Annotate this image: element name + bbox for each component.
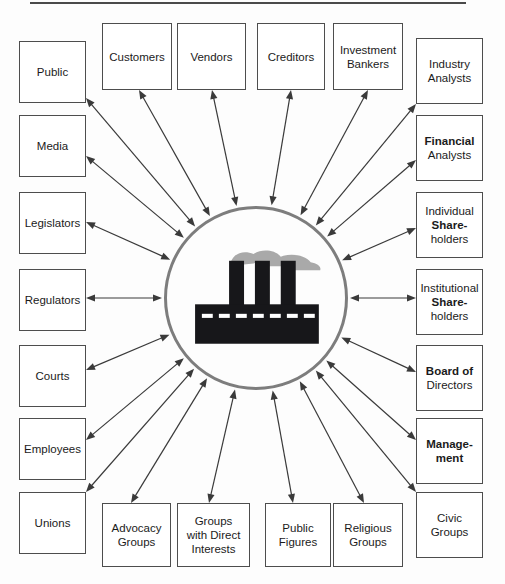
label-line: Vendors bbox=[190, 50, 232, 64]
label-line: Religious bbox=[344, 521, 391, 535]
connector-financial-analysts bbox=[327, 160, 416, 237]
stakeholder-box-board-of-directors[interactable]: Board ofDirectors bbox=[416, 345, 483, 411]
label-line: Groups bbox=[431, 525, 469, 539]
connector-individual-shareholders bbox=[342, 228, 416, 260]
connector-public-figures bbox=[271, 391, 295, 503]
stakeholder-label: CivicGroups bbox=[431, 511, 469, 539]
label-line: Public bbox=[37, 65, 68, 79]
connector-line bbox=[304, 388, 361, 496]
stakeholder-label: Media bbox=[37, 139, 68, 153]
stakeholder-label: Regulators bbox=[25, 293, 81, 307]
connector-line bbox=[304, 97, 364, 208]
stakeholder-box-individual-shareholders[interactable]: IndividualShare-holders bbox=[416, 192, 483, 258]
label-line: Groups bbox=[112, 535, 162, 549]
label-line: Groups bbox=[187, 514, 241, 528]
label-line: Industry bbox=[428, 57, 471, 71]
arrowhead-outward bbox=[406, 228, 416, 235]
label-line: Advocacy bbox=[112, 521, 162, 535]
arrowhead-inward bbox=[300, 381, 307, 391]
connector-civic-groups bbox=[316, 371, 416, 492]
corporation-hub bbox=[164, 206, 348, 390]
arrowhead-inward bbox=[160, 335, 170, 342]
label-line: Groups bbox=[344, 535, 391, 549]
arrowhead-outward bbox=[210, 90, 217, 100]
connector-line bbox=[214, 98, 235, 198]
stakeholder-box-employees[interactable]: Employees bbox=[19, 418, 86, 480]
stakeholder-box-advocacy-groups[interactable]: AdvocacyGroups bbox=[102, 503, 171, 567]
stakeholder-box-industry-analysts[interactable]: IndustryAnalysts bbox=[416, 38, 483, 104]
stakeholder-diagram: PublicMediaLegislatorsRegulatorsCourtsEm… bbox=[0, 0, 505, 584]
connector-line bbox=[143, 97, 206, 209]
arrowhead-inward bbox=[341, 337, 351, 344]
stakeholder-box-groups-direct-interests[interactable]: Groupswith DirectInterests bbox=[177, 503, 250, 567]
connector-line bbox=[332, 366, 410, 435]
label-line: Analysts bbox=[425, 148, 475, 162]
stakeholder-box-civic-groups[interactable]: CivicGroups bbox=[416, 492, 483, 558]
stakeholder-label: Employees bbox=[24, 442, 81, 456]
connector-board-of-directors bbox=[341, 337, 416, 372]
arrowhead-inward bbox=[231, 196, 238, 206]
arrowhead-inward bbox=[301, 206, 308, 216]
arrowhead-outward bbox=[86, 222, 96, 229]
stakeholder-label: Creditors bbox=[268, 50, 315, 64]
connector-regulators bbox=[86, 294, 162, 301]
stakeholder-box-management[interactable]: Manage-ment bbox=[416, 418, 483, 484]
label-line: Share- bbox=[425, 218, 474, 232]
stakeholder-box-customers[interactable]: Customers bbox=[102, 23, 172, 90]
arrowhead-inward bbox=[350, 294, 359, 301]
stakeholder-box-investment-bankers[interactable]: InvestmentBankers bbox=[333, 23, 403, 90]
stakeholder-label: IndustryAnalysts bbox=[428, 57, 471, 85]
arrowhead-outward bbox=[86, 363, 96, 370]
arrowhead-inward bbox=[153, 294, 162, 301]
connector-investment-bankers bbox=[301, 90, 368, 215]
stakeholder-box-financial-analysts[interactable]: FinancialAnalysts bbox=[416, 115, 483, 181]
stakeholder-box-legislators[interactable]: Legislators bbox=[19, 192, 86, 254]
stakeholder-box-religious-groups[interactable]: ReligiousGroups bbox=[333, 503, 403, 567]
stakeholder-label: Legislators bbox=[25, 216, 81, 230]
arrowhead-inward bbox=[271, 391, 278, 400]
stakeholder-box-vendors[interactable]: Vendors bbox=[177, 23, 246, 90]
arrowhead-inward bbox=[202, 206, 210, 216]
stakeholder-label: Unions bbox=[35, 516, 71, 530]
stakeholder-label: ReligiousGroups bbox=[344, 521, 391, 549]
label-line: Individual bbox=[425, 204, 474, 218]
stakeholder-label: PublicFigures bbox=[279, 521, 317, 549]
stakeholder-box-creditors[interactable]: Creditors bbox=[257, 23, 325, 90]
connector-institutional-shareholders bbox=[350, 294, 416, 301]
stakeholder-label: Board ofDirectors bbox=[426, 364, 473, 392]
stakeholder-box-public[interactable]: Public bbox=[19, 41, 86, 103]
arrowhead-outward bbox=[357, 493, 364, 503]
label-line: Directors bbox=[426, 378, 473, 392]
connector-employees bbox=[86, 358, 184, 440]
label-line: ment bbox=[426, 451, 473, 465]
label-line: Investment bbox=[340, 43, 396, 57]
connector-line bbox=[274, 398, 291, 495]
label-line: Unions bbox=[35, 516, 71, 530]
label-line: Regulators bbox=[25, 293, 81, 307]
label-line: Board of bbox=[426, 364, 473, 378]
label-line: Customers bbox=[109, 50, 165, 64]
stakeholder-box-institutional-shareholders[interactable]: InstitutionalShare-holders bbox=[416, 269, 483, 335]
connector-line bbox=[92, 161, 178, 232]
stakeholder-box-unions[interactable]: Unions bbox=[19, 492, 86, 554]
label-line: holders bbox=[425, 232, 474, 246]
label-line: Financial bbox=[425, 134, 475, 148]
arrowhead-inward bbox=[342, 253, 352, 260]
arrowhead-inward bbox=[270, 196, 277, 205]
arrowhead-outward bbox=[288, 494, 295, 503]
label-line: holders bbox=[420, 309, 478, 323]
connector-unions bbox=[86, 369, 194, 492]
stakeholder-box-media[interactable]: Media bbox=[19, 115, 86, 177]
connector-line bbox=[93, 338, 162, 367]
stakeholder-box-public-figures[interactable]: PublicFigures bbox=[265, 503, 331, 567]
connector-line bbox=[211, 397, 233, 495]
stakeholder-box-courts[interactable]: Courts bbox=[19, 345, 86, 407]
stakeholder-box-regulators[interactable]: Regulators bbox=[19, 269, 86, 331]
connector-line bbox=[349, 231, 408, 257]
connector-line bbox=[92, 363, 178, 434]
label-line: Figures bbox=[279, 535, 317, 549]
label-line: Employees bbox=[24, 442, 81, 456]
stakeholder-label: Customers bbox=[109, 50, 165, 64]
stakeholder-label: InstitutionalShare-holders bbox=[420, 281, 478, 323]
label-line: Creditors bbox=[268, 50, 315, 64]
